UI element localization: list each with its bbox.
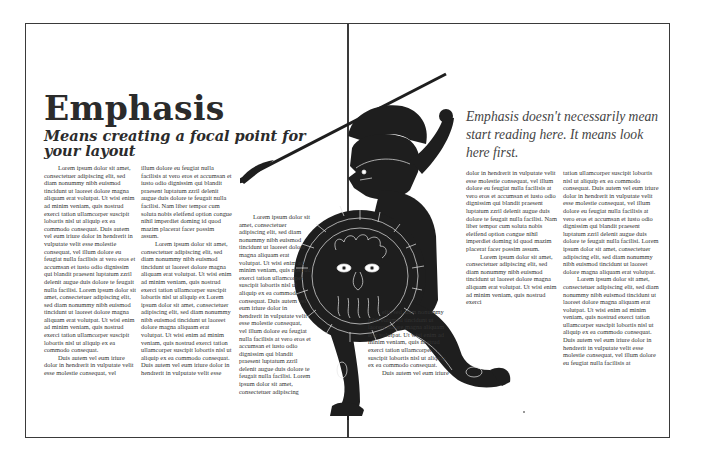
- body-column-4: elit, sed diam nonummy nibh euismod tinc…: [368, 308, 450, 376]
- paragraph: dolor in hendrerit in vulputate velit es…: [466, 169, 558, 253]
- paragraph: tation ullamcorper suscipit lobortis nis…: [563, 169, 659, 275]
- body-column-6: tation ullamcorper suscipit lobortis nis…: [563, 169, 659, 366]
- body-column-1: Lorem ipsum dolor sit amet, consectetuer…: [44, 164, 136, 377]
- pull-quote: Emphasis doesn't necessarily mean start …: [466, 108, 666, 162]
- page-title: Emphasis: [44, 92, 225, 125]
- paragraph: elit, sed diam nonummy nibh euismod tinc…: [368, 308, 450, 369]
- center-spine-divider: [347, 23, 349, 438]
- paragraph: Lorem ipsum dolor sit amet, consectetuer…: [141, 240, 233, 377]
- paragraph: Lorem ipsum dolor sit amet, consectetuer…: [44, 164, 136, 354]
- body-column-3: Lorem ipsum dolor sit amet, consectetuer…: [239, 213, 311, 395]
- body-column-2: illum dolore eu feugiat nulla facilisis …: [141, 164, 233, 377]
- paragraph: illum dolore eu feugiat nulla facilisis …: [141, 164, 233, 240]
- paragraph: Lorem ipsum dolor sit amet, consectetuer…: [563, 275, 659, 366]
- paragraph: Duis autem vel eum iriure: [368, 369, 450, 377]
- paragraph: Lorem ipsum dolor sit amet, consectetuer…: [239, 213, 311, 395]
- page-subtitle: Means creating a focal point for your la…: [44, 128, 314, 158]
- stray-mark: [523, 411, 525, 413]
- body-column-5: dolor in hendrerit in vulputate velit es…: [466, 169, 558, 306]
- paragraph: Lorem ipsum dolor sit amet, consectetuer…: [466, 253, 558, 306]
- paragraph: Duis autem vel eum iriure dolor in hendr…: [44, 354, 136, 377]
